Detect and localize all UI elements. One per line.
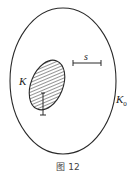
outer-set-label: K0 [115,93,127,108]
segment-s-label: s [84,51,88,62]
inner-set-k [22,55,71,115]
inner-set-label: K [18,75,27,87]
figure-caption: 图 12 [56,162,79,172]
figure-canvas: s K K0 图 12 [0,0,136,175]
